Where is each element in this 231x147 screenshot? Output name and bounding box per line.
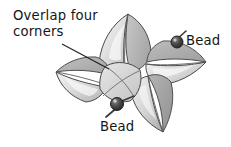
bead-bottom-glint xyxy=(113,99,116,102)
label-bead-top: Bead xyxy=(186,33,220,49)
bead-top-body xyxy=(171,36,183,48)
label-bead-bottom: Bead xyxy=(100,119,134,135)
bead-top-glint xyxy=(173,38,176,41)
pinwheel-hub xyxy=(100,63,141,102)
label-overlap-line1: Overlap four xyxy=(13,8,98,23)
illustration-root: Overlap fourcorners Bead Bead xyxy=(0,0,231,147)
blade-top-back xyxy=(126,14,151,72)
hub-face xyxy=(100,63,141,102)
label-overlap-four-corners: Overlap fourcorners xyxy=(13,8,98,39)
bead-bottom-body xyxy=(111,98,124,111)
label-overlap-line2: corners xyxy=(13,24,64,39)
